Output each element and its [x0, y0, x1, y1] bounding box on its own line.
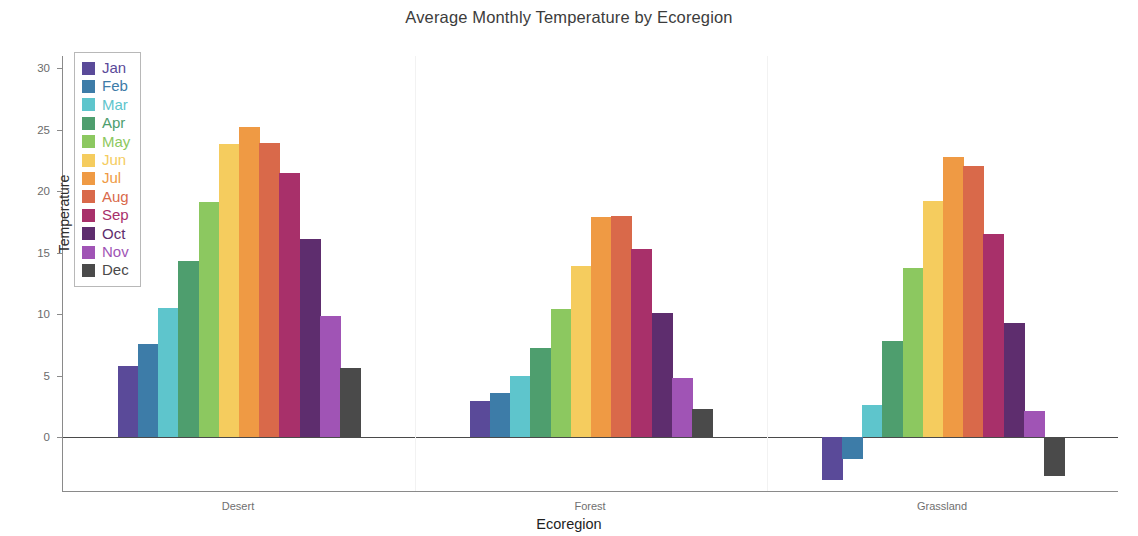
y-axis-label: Temperature	[56, 144, 72, 284]
y-axis-tick-mark	[57, 130, 62, 131]
bar	[320, 316, 341, 437]
legend-swatch-icon	[82, 80, 95, 93]
legend-swatch-icon	[82, 172, 95, 185]
bar	[551, 309, 572, 437]
zero-baseline	[63, 437, 1118, 438]
y-axis-tick-label: 10	[37, 306, 50, 322]
legend-item-jun[interactable]: Jun	[82, 151, 130, 169]
legend-item-label: May	[102, 133, 130, 151]
bar	[199, 202, 220, 437]
y-axis-tick: 25	[0, 130, 62, 131]
bar	[490, 393, 511, 437]
chart-legend: JanFebMarAprMayJunJulAugSepOctNovDec	[74, 52, 141, 287]
plot-area	[62, 56, 1118, 492]
y-axis-tick: 5	[0, 376, 62, 377]
legend-swatch-icon	[82, 190, 95, 203]
y-axis-tick-label: 5	[44, 368, 50, 384]
legend-item-may[interactable]: May	[82, 133, 130, 151]
bar	[118, 366, 139, 437]
legend-item-dec[interactable]: Dec	[82, 261, 130, 279]
legend-item-nov[interactable]: Nov	[82, 243, 130, 261]
legend-item-label: Apr	[102, 114, 125, 132]
bar	[340, 368, 361, 437]
legend-item-label: Dec	[102, 261, 129, 279]
y-axis-tick-label: 20	[37, 183, 50, 199]
legend-item-sep[interactable]: Sep	[82, 206, 130, 224]
legend-swatch-icon	[82, 227, 95, 240]
chart-title: Average Monthly Temperature by Ecoregion	[0, 8, 1138, 27]
legend-swatch-icon	[82, 62, 95, 75]
legend-item-label: Jul	[102, 169, 121, 187]
x-axis-tick-label: Grassland	[766, 500, 1118, 512]
y-axis-tick-mark	[57, 191, 62, 192]
y-axis-tick: 10	[0, 314, 62, 315]
legend-item-label: Sep	[102, 206, 129, 224]
bar	[219, 144, 240, 437]
bar	[692, 409, 713, 437]
y-axis-tick: 15	[0, 253, 62, 254]
bar	[903, 268, 924, 437]
legend-item-label: Nov	[102, 243, 129, 261]
y-axis-tick: 30	[0, 68, 62, 69]
y-axis-tick-mark	[57, 437, 62, 438]
y-axis-tick-label: 15	[37, 245, 50, 261]
bar	[923, 201, 944, 437]
bar	[842, 437, 863, 459]
x-axis-tick-label: Desert	[62, 500, 414, 512]
y-axis-tick: 20	[0, 191, 62, 192]
y-axis-tick: 0	[0, 437, 62, 438]
bar	[1004, 323, 1025, 437]
bar	[510, 376, 531, 438]
bar	[672, 378, 693, 437]
bar	[611, 216, 632, 437]
legend-item-feb[interactable]: Feb	[82, 77, 130, 95]
legend-swatch-icon	[82, 135, 95, 148]
legend-swatch-icon	[82, 246, 95, 259]
legend-item-jul[interactable]: Jul	[82, 169, 130, 187]
bar	[983, 234, 1004, 437]
bar	[178, 261, 199, 437]
legend-item-label: Jan	[102, 59, 126, 77]
y-axis-tick-mark	[57, 253, 62, 254]
x-axis-label: Ecoregion	[0, 516, 1138, 532]
bar	[943, 157, 964, 437]
y-axis-tick-mark	[57, 376, 62, 377]
y-axis-tick-label: 30	[37, 60, 50, 76]
bar	[963, 166, 984, 437]
bar	[1044, 437, 1065, 476]
legend-swatch-icon	[82, 98, 95, 111]
bar	[862, 405, 883, 437]
bar	[239, 127, 260, 437]
legend-swatch-icon	[82, 154, 95, 167]
legend-item-label: Feb	[102, 77, 128, 95]
bar	[1024, 411, 1045, 437]
bar	[882, 341, 903, 437]
legend-item-label: Oct	[102, 225, 125, 243]
bar	[591, 217, 612, 437]
bar	[158, 308, 179, 437]
bar	[652, 313, 673, 437]
y-axis-tick-mark	[57, 68, 62, 69]
legend-item-label: Jun	[102, 151, 126, 169]
bar	[279, 173, 300, 437]
legend-item-apr[interactable]: Apr	[82, 114, 130, 132]
legend-item-jan[interactable]: Jan	[82, 59, 130, 77]
plot-vertical-rule	[415, 56, 416, 491]
x-axis-tick-label: Forest	[414, 500, 766, 512]
legend-item-aug[interactable]: Aug	[82, 188, 130, 206]
legend-item-mar[interactable]: Mar	[82, 96, 130, 114]
legend-item-label: Aug	[102, 188, 129, 206]
legend-swatch-icon	[82, 209, 95, 222]
y-axis-tick-mark	[57, 314, 62, 315]
bar	[571, 266, 592, 437]
chart-figure: Average Monthly Temperature by Ecoregion…	[0, 0, 1138, 536]
y-axis-tick-label: 25	[37, 122, 50, 138]
legend-item-oct[interactable]: Oct	[82, 225, 130, 243]
plot-vertical-rule	[767, 56, 768, 491]
y-axis-tick-label: 0	[44, 429, 50, 445]
bar	[822, 437, 843, 480]
bar	[259, 143, 280, 437]
legend-swatch-icon	[82, 264, 95, 277]
bar	[138, 344, 159, 437]
legend-item-label: Mar	[102, 96, 128, 114]
